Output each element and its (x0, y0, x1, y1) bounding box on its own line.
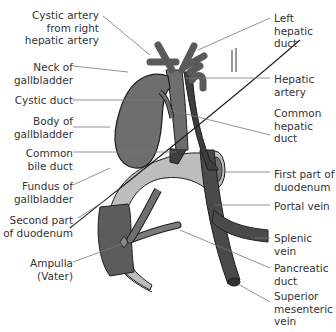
label-superior-mesenteric-vein: Superior mesenteric vein (274, 290, 333, 328)
label-left-hepatic-duct: Left hepatic duct (274, 12, 336, 50)
label-pancreatic-duct: Pancreatic duct (274, 262, 329, 287)
label-splenic-vein: Splenic vein (274, 232, 336, 257)
label-body-gallbladder: Body of gallbladder (14, 115, 73, 140)
label-cystic-duct: Cystic duct (15, 94, 73, 107)
label-neck-gallbladder: Neck of gallbladder (14, 61, 73, 86)
label-first-part-duodenum: First part of duodenum (274, 168, 334, 193)
label-second-part-duodenum: Second part of duodenum (3, 214, 73, 239)
label-common-hepatic-duct: Common hepatic duct (274, 107, 336, 145)
label-portal-vein: Portal vein (274, 200, 330, 213)
label-ampulla: Ampulla (Vater) (30, 257, 73, 282)
label-cystic-artery: Cystic artery from right hepatic artery (25, 9, 99, 47)
label-fundus-gallbladder: Fundus of gallbladder (14, 180, 73, 205)
label-common-bile-duct: Common bile duct (26, 147, 73, 172)
gallbladder (115, 74, 170, 168)
label-hepatic-artery: Hepatic artery (274, 73, 314, 98)
